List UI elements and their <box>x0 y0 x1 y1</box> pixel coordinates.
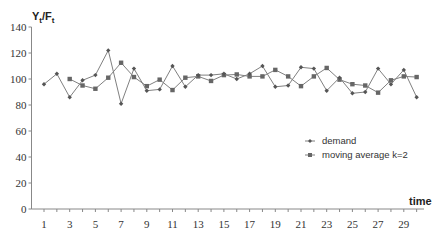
data-point <box>93 73 97 77</box>
data-point <box>414 95 418 99</box>
data-point <box>363 90 367 94</box>
x-tick-label: 13 <box>193 218 205 230</box>
y-tick-label: 40 <box>16 151 28 163</box>
diamond-marker-icon <box>308 139 312 143</box>
data-point <box>286 74 290 78</box>
x-axis-ticks: 1357911131517192123252729 <box>41 209 416 230</box>
data-point <box>260 64 264 68</box>
data-point <box>183 76 187 80</box>
data-point <box>106 48 110 52</box>
data-point <box>209 79 213 83</box>
data-point <box>132 75 136 79</box>
x-tick-label: 27 <box>373 218 385 230</box>
data-point <box>235 72 239 76</box>
data-point <box>325 66 329 70</box>
data-point <box>414 75 418 79</box>
series-demand <box>42 48 419 106</box>
x-tick-label: 15 <box>218 218 230 230</box>
line-chart: 020406080100120140 135791113151719212325… <box>0 0 446 241</box>
x-tick-label: 29 <box>398 218 410 230</box>
square-marker-icon <box>308 153 312 157</box>
y-tick-label: 0 <box>21 203 27 215</box>
data-point <box>170 88 174 92</box>
data-point <box>106 76 110 80</box>
x-tick-label: 1 <box>41 218 47 230</box>
data-point <box>157 77 161 81</box>
x-tick-label: 7 <box>118 218 124 230</box>
data-point <box>273 68 277 72</box>
x-tick-label: 21 <box>296 218 307 230</box>
data-point <box>350 82 354 86</box>
data-point <box>273 85 277 89</box>
data-point <box>376 90 380 94</box>
legend-label-moving-average: moving average k=2 <box>322 149 408 160</box>
y-tick-label: 60 <box>16 125 28 137</box>
data-point <box>363 83 367 87</box>
legend-item-moving-average: moving average k=2 <box>305 149 408 160</box>
data-point <box>119 61 123 65</box>
y-axis-title: Yt/Ft <box>32 10 55 25</box>
legend-label-demand: demand <box>322 135 356 146</box>
data-point <box>80 83 84 87</box>
data-point <box>312 66 316 70</box>
y-tick-label: 140 <box>10 21 27 33</box>
x-axis-title: time <box>409 195 432 207</box>
y-tick-label: 100 <box>10 73 27 85</box>
x-tick-label: 17 <box>244 218 256 230</box>
legend: demand moving average k=2 <box>305 135 408 160</box>
legend-item-demand: demand <box>305 135 356 146</box>
data-point <box>157 87 161 91</box>
data-point <box>132 66 136 70</box>
data-point <box>119 102 123 106</box>
y-axis-ticks: 020406080100120140 <box>10 21 32 215</box>
data-point <box>170 64 174 68</box>
data-point <box>93 87 97 91</box>
data-point <box>209 73 213 77</box>
y-tick-label: 80 <box>16 99 28 111</box>
data-point <box>402 74 406 78</box>
x-tick-label: 19 <box>270 218 282 230</box>
data-point <box>145 89 149 93</box>
x-tick-label: 11 <box>167 218 178 230</box>
data-point <box>260 74 264 78</box>
y-tick-label: 120 <box>10 47 27 59</box>
x-tick-label: 25 <box>347 218 359 230</box>
axes <box>32 27 425 209</box>
x-tick-label: 3 <box>67 218 73 230</box>
data-point <box>312 74 316 78</box>
data-point <box>235 77 239 81</box>
x-tick-label: 9 <box>144 218 150 230</box>
x-tick-label: 23 <box>321 218 333 230</box>
x-tick-label: 5 <box>93 218 99 230</box>
y-tick-label: 20 <box>16 177 28 189</box>
data-point <box>299 84 303 88</box>
data-point <box>68 77 72 81</box>
